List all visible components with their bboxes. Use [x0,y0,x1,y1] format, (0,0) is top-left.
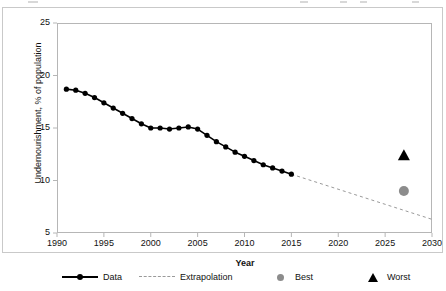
best-scenario-marker [399,186,409,196]
solid-line-marker-swatch [62,271,98,283]
black-triangle-swatch [364,271,382,283]
data-point-marker [158,125,163,130]
triangle-glyph [368,273,378,282]
dashed-line-glyph [139,276,175,277]
data-point-marker [223,144,228,149]
worst-scenario-marker [398,149,410,160]
data-point-marker [251,158,256,163]
data-point-marker [64,87,69,92]
extrapolation-line [291,174,432,219]
data-point-marker [176,125,181,130]
legend-label-worst: Worst [387,272,410,282]
chart-figure: Undernourishment, % of population Year 5… [0,0,446,291]
data-point-marker [139,121,144,126]
legend-item-extrapolation: Extrapolation [139,269,233,285]
data-point-marker [242,154,247,159]
data-point-marker [148,125,153,130]
chart-legend: Data Extrapolation Best Worst [0,269,446,287]
data-point-marker [279,168,284,173]
data-point-marker [111,105,116,110]
legend-label-best: Best [295,272,313,282]
data-point-marker [92,95,97,100]
plot-graphics [0,0,446,291]
axis-tick-marks [53,23,432,237]
dashed-line-swatch [139,271,175,283]
legend-label-extrapolation: Extrapolation [180,272,233,282]
circle-glyph [277,274,284,281]
data-point-marker [73,88,78,93]
data-point-marker [289,172,294,177]
legend-item-worst: Worst [364,269,410,285]
data-point-marker [83,91,88,96]
data-point-marker [129,116,134,121]
data-point-marker [261,162,266,167]
data-point-marker [186,124,191,129]
gray-circle-swatch [272,271,290,283]
data-line [66,89,291,174]
dot-glyph [77,274,83,280]
data-point-marker [214,139,219,144]
data-point-marker [101,100,106,105]
data-point-marker [204,133,209,138]
legend-item-best: Best [272,269,313,285]
data-point-marker [270,165,275,170]
legend-label-data: Data [103,272,122,282]
data-point-marker [195,126,200,131]
data-point-marker [233,150,238,155]
data-point-marker [167,126,172,131]
legend-item-data: Data [62,269,122,285]
data-point-marker [120,111,125,116]
